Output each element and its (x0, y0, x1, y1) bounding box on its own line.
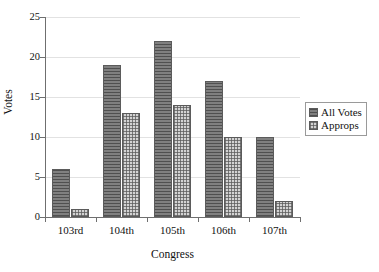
y-axis-title: Votes (2, 72, 14, 132)
y-tick-label: 20 (2, 52, 40, 62)
legend-label-approps: Approps (321, 120, 359, 131)
bar-group (52, 17, 89, 217)
y-tick-label: 25 (2, 12, 40, 22)
bar-group (103, 17, 140, 217)
plot-area (45, 17, 300, 217)
y-tick-mark (40, 57, 45, 58)
bar-104th-all-votes (103, 65, 121, 217)
y-tick-mark (40, 177, 45, 178)
legend-label-all-votes: All Votes (321, 107, 362, 118)
bar-106th-all-votes (205, 81, 223, 217)
x-tick-mark (45, 217, 46, 222)
x-tick-mark (147, 217, 148, 222)
bar-group (154, 17, 191, 217)
legend-item-approps: Approps (309, 119, 362, 132)
bar-group (256, 17, 293, 217)
legend-item-all-votes: All Votes (309, 106, 362, 119)
bar-106th-approps (224, 137, 242, 217)
bar-group (205, 17, 242, 217)
x-axis-line (45, 217, 301, 218)
bar-104th-approps (122, 113, 140, 217)
chart-legend: All Votes Approps (305, 102, 367, 136)
x-axis-title: Congress (0, 248, 345, 260)
bar-103rd-all-votes (52, 169, 70, 217)
x-tick-mark (96, 217, 97, 222)
y-tick-label: 5 (2, 172, 40, 182)
y-tick-mark (40, 17, 45, 18)
chart-figure: 0510152025 103rd104th105th106th107th Con… (0, 0, 379, 272)
x-tick-label: 107th (245, 224, 305, 236)
y-tick-label: 10 (2, 132, 40, 142)
bar-107th-all-votes (256, 137, 274, 217)
x-tick-mark (249, 217, 250, 222)
y-tick-mark (40, 137, 45, 138)
bar-103rd-approps (71, 209, 89, 217)
x-tick-mark (198, 217, 199, 222)
y-axis-line (45, 17, 46, 217)
legend-swatch-icon-all-votes (309, 108, 318, 117)
y-tick-mark (40, 97, 45, 98)
bar-107th-approps (275, 201, 293, 217)
x-tick-mark (300, 217, 301, 222)
bar-105th-approps (173, 105, 191, 217)
legend-swatch-icon-approps (309, 121, 318, 130)
y-tick-label: 0 (2, 212, 40, 222)
bar-105th-all-votes (154, 41, 172, 217)
